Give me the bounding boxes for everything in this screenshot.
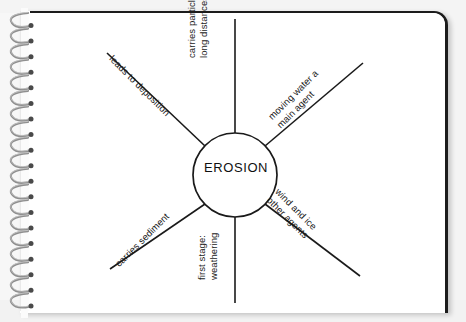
spiral-coil-end — [29, 241, 34, 246]
spiral-coil-end — [29, 39, 34, 44]
spiral-coil-end — [29, 194, 34, 199]
spiral-coil-end — [29, 226, 34, 231]
spiral-coil-end — [29, 70, 34, 75]
spiral-coil-end — [29, 148, 34, 153]
notebook-scene: EROSION carries particles long distances… — [0, 0, 466, 322]
binding-page-edge — [21, 8, 28, 318]
spiral-coil-end — [29, 210, 34, 215]
spiral-binding-icon — [0, 8, 48, 318]
spiral-coil-end — [29, 85, 34, 90]
spiral-coil-end — [29, 101, 34, 106]
spiral-coil-end — [29, 23, 34, 28]
spiral-coil-end — [29, 132, 34, 137]
spiral-coil-end — [29, 288, 34, 293]
spoke-label-top-line1: carries particles — [186, 0, 198, 58]
center-circle — [193, 133, 277, 217]
spiral-coil-end — [29, 179, 34, 184]
spiral-coil-end — [29, 303, 34, 308]
spiral-coil-end — [29, 163, 34, 168]
spoke-label-top: carries particles long distances — [186, 0, 209, 58]
spoke-label-top-line2: long distances — [198, 0, 210, 58]
spiral-coil-end — [29, 257, 34, 262]
spoke-label-bottom-line1: first stage: — [196, 233, 208, 280]
spoke-label-bottom-line2: weathering — [208, 233, 220, 280]
spiral-coil-end — [29, 54, 34, 59]
center-topic-label: EROSION — [196, 160, 276, 175]
spiral-coil-end — [29, 116, 34, 121]
spoke-label-bottom: first stage: weathering — [196, 233, 219, 280]
spiral-coil-end — [29, 272, 34, 277]
